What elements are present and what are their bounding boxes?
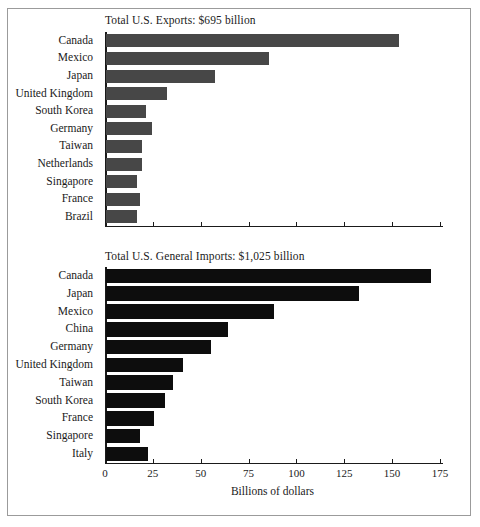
bar <box>106 322 228 337</box>
x-axis-tick <box>344 222 345 227</box>
x-axis-tick-label: 175 <box>432 467 449 479</box>
bar <box>106 210 137 223</box>
bar <box>106 358 183 373</box>
bar <box>106 70 215 83</box>
category-label: Canada <box>0 34 93 46</box>
category-label: South Korea <box>0 394 93 406</box>
x-axis-tick <box>296 222 297 227</box>
x-axis-tick <box>153 222 154 227</box>
category-label: Mexico <box>0 305 93 317</box>
chart-title-exports: Total U.S. Exports: $695 billion <box>105 14 256 26</box>
bar <box>106 375 173 390</box>
x-axis-tick <box>344 459 345 464</box>
x-axis-tick-label: 0 <box>102 467 108 479</box>
figure-canvas: Total U.S. Exports: $695 billion CanadaM… <box>0 0 480 527</box>
x-axis-tick <box>153 459 154 464</box>
x-axis-tick-label: 75 <box>243 467 254 479</box>
x-axis-tick <box>296 459 297 464</box>
category-label: Singapore <box>0 429 93 441</box>
category-label: Singapore <box>0 175 93 187</box>
category-label: Japan <box>0 69 93 81</box>
bar <box>106 304 274 319</box>
x-axis-tick-label: 125 <box>336 467 353 479</box>
bar <box>106 411 154 426</box>
bar <box>106 34 399 47</box>
plot-area-exports <box>105 32 441 226</box>
category-label: United Kingdom <box>0 358 93 370</box>
category-label: South Korea <box>0 104 93 116</box>
x-axis-tick-label: 25 <box>147 467 158 479</box>
category-label: Germany <box>0 122 93 134</box>
bar <box>106 87 167 100</box>
bar <box>106 269 431 284</box>
chart-title-imports: Total U.S. General Imports: $1,025 billi… <box>105 250 305 262</box>
category-label: Netherlands <box>0 157 93 169</box>
x-axis-tick-label: 100 <box>288 467 305 479</box>
category-label: China <box>0 322 93 334</box>
bar <box>106 340 211 355</box>
bar <box>106 429 140 444</box>
bar <box>106 393 165 408</box>
bar <box>106 105 146 118</box>
plot-area-imports: 0255075100125150175 <box>105 267 441 463</box>
x-axis-tick-label: 150 <box>384 467 401 479</box>
category-label: Italy <box>0 447 93 459</box>
x-axis-tick <box>440 222 441 227</box>
x-axis-tick <box>249 459 250 464</box>
x-axis-tick <box>249 222 250 227</box>
bar <box>106 175 137 188</box>
x-axis-tick-label: 50 <box>195 467 206 479</box>
category-label: United Kingdom <box>0 87 93 99</box>
category-label: Japan <box>0 287 93 299</box>
x-axis-tick <box>201 222 202 227</box>
category-label: France <box>0 192 93 204</box>
category-label: Germany <box>0 340 93 352</box>
bar <box>106 193 140 206</box>
bar <box>106 286 359 301</box>
bar <box>106 52 269 65</box>
bar <box>106 122 152 135</box>
x-axis-tick <box>440 459 441 464</box>
x-axis-tick <box>201 459 202 464</box>
x-axis-label: Billions of dollars <box>231 485 314 497</box>
category-label: France <box>0 411 93 423</box>
category-label: Mexico <box>0 51 93 63</box>
bar <box>106 140 142 153</box>
bar <box>106 447 148 462</box>
category-label: Taiwan <box>0 376 93 388</box>
x-axis-tick <box>392 459 393 464</box>
category-label: Canada <box>0 269 93 281</box>
category-label: Taiwan <box>0 139 93 151</box>
category-label: Brazil <box>0 210 93 222</box>
bar <box>106 158 142 171</box>
x-axis-tick <box>392 222 393 227</box>
